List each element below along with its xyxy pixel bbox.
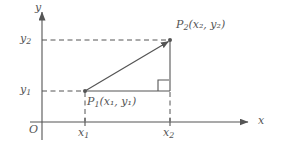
y2-subscript: 2 xyxy=(26,37,31,46)
x1-subscript: 1 xyxy=(84,131,89,140)
y-axis-label: y xyxy=(35,2,41,13)
point-p2-dot xyxy=(168,38,172,42)
right-angle-marker-icon xyxy=(158,80,169,91)
x-tick-label-x1: x1 xyxy=(78,127,89,140)
point-p1-label: P1(x₁, y₁) xyxy=(87,96,136,109)
y-tick-label-y1: y1 xyxy=(20,84,31,97)
point-p2-label: P2(x₂, y₂) xyxy=(176,19,225,32)
hypotenuse-arrow xyxy=(85,42,169,92)
p2-coords: (x₂, y₂) xyxy=(188,18,225,31)
p1-coords: (x₁, y₁) xyxy=(99,95,136,108)
y-tick-label-y2: y2 xyxy=(20,33,31,46)
origin-label: O xyxy=(29,124,38,135)
point-p1-dot xyxy=(83,89,87,93)
x-tick-label-x2: x2 xyxy=(163,127,174,140)
y1-subscript: 1 xyxy=(26,88,31,97)
diagram-canvas xyxy=(0,0,284,153)
x-axis-label: x xyxy=(258,115,264,126)
x2-subscript: 2 xyxy=(169,131,174,140)
distance-formula-diagram: y x O y2 y1 x1 x2 P2(x₂, y₂) P1(x₁, y₁) xyxy=(0,0,284,153)
